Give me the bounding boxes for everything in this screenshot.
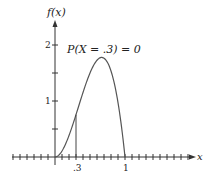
x-tick-label-1: 1 bbox=[123, 163, 129, 173]
x-axis-label: x bbox=[197, 151, 203, 162]
density-curve bbox=[55, 57, 125, 157]
y-tick-label-2: 2 bbox=[45, 40, 51, 50]
x-axis-arrow-icon bbox=[189, 155, 196, 160]
annotation-label: P(X = .3) = 0 bbox=[66, 43, 141, 56]
x-tick-label-0.3: .3 bbox=[73, 163, 82, 173]
y-axis-label: f(x) bbox=[46, 6, 66, 19]
y-tick-label-1: 1 bbox=[45, 96, 51, 106]
y-axis-arrow-icon bbox=[53, 20, 58, 27]
density-plot: f(x) x P(X = .3) = 0 .3 1 1 2 bbox=[0, 0, 207, 181]
